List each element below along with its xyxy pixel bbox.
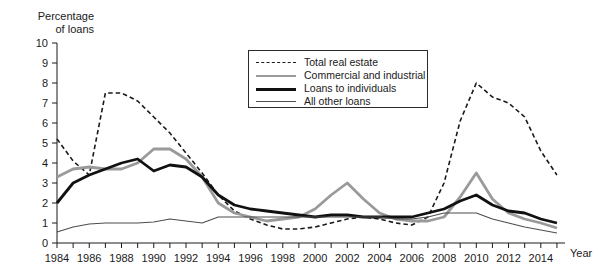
svg-text:6: 6 xyxy=(42,117,48,129)
y-axis-ticks: 012345678910 xyxy=(36,37,57,249)
svg-text:2: 2 xyxy=(42,197,48,209)
svg-text:1994: 1994 xyxy=(206,252,230,264)
svg-text:1990: 1990 xyxy=(142,252,166,264)
svg-text:3: 3 xyxy=(42,177,48,189)
x-axis-ticks: 1984198619881990199219941996199820002002… xyxy=(45,243,557,264)
svg-text:1992: 1992 xyxy=(174,252,198,264)
legend-swatch-loans-to-individuals xyxy=(256,83,296,93)
legend-item: Commercial and industrial xyxy=(256,68,427,81)
svg-text:2000: 2000 xyxy=(303,252,327,264)
legend-label-all-other-loans: All other loans xyxy=(304,95,371,107)
plot-area: 012345678910 198419861988199019921994199… xyxy=(0,0,605,276)
svg-text:1: 1 xyxy=(42,217,48,229)
svg-text:2006: 2006 xyxy=(400,252,424,264)
svg-text:10: 10 xyxy=(36,37,48,49)
svg-text:5: 5 xyxy=(42,137,48,149)
svg-text:8: 8 xyxy=(42,77,48,89)
svg-text:2010: 2010 xyxy=(464,252,488,264)
chart-legend: Total real estate Commercial and industr… xyxy=(248,50,428,108)
legend-label-total-real-estate: Total real estate xyxy=(304,56,378,68)
svg-text:1986: 1986 xyxy=(77,252,101,264)
svg-text:1988: 1988 xyxy=(109,252,133,264)
svg-text:7: 7 xyxy=(42,97,48,109)
svg-text:1996: 1996 xyxy=(238,252,262,264)
legend-item: Loans to individuals xyxy=(256,81,427,94)
legend-item: Total real estate xyxy=(256,55,427,68)
svg-text:2002: 2002 xyxy=(335,252,359,264)
legend-item: All other loans xyxy=(256,94,427,107)
svg-text:1998: 1998 xyxy=(271,252,295,264)
svg-text:2004: 2004 xyxy=(367,252,391,264)
svg-text:0: 0 xyxy=(42,237,48,249)
legend-swatch-commercial-and-industrial xyxy=(256,70,296,80)
legend-label-commercial-and-industrial: Commercial and industrial xyxy=(304,69,425,81)
legend-swatch-total-real-estate xyxy=(256,57,296,67)
svg-text:2012: 2012 xyxy=(496,252,520,264)
svg-text:2014: 2014 xyxy=(529,252,553,264)
legend-swatch-all-other-loans xyxy=(256,96,296,106)
svg-text:9: 9 xyxy=(42,57,48,69)
svg-text:1984: 1984 xyxy=(45,252,69,264)
svg-text:2008: 2008 xyxy=(432,252,456,264)
legend-label-loans-to-individuals: Loans to individuals xyxy=(304,82,396,94)
chart-container: Percentage of loans Year 012345678910 19… xyxy=(0,0,605,276)
svg-text:4: 4 xyxy=(42,157,48,169)
